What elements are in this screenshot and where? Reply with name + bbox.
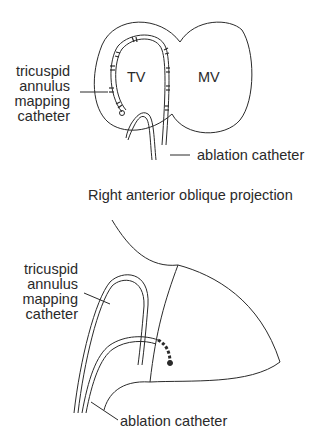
label-line: tricuspid [0, 262, 78, 277]
label-line: tricuspid [0, 64, 70, 79]
ablation-leader-rao [91, 402, 118, 420]
ablation-catheter-label-lao: ablation catheter [197, 148, 304, 163]
rao-title: Right anterior oblique projection [88, 188, 293, 203]
mapping-catheter-label-rao: tricuspid annulus mapping catheter [0, 262, 78, 322]
rao-septum [150, 265, 178, 382]
label-line: mapping [0, 292, 78, 307]
rao-outline-top [112, 220, 280, 362]
mv-label: MV [198, 70, 220, 85]
rao-outline-bottom [104, 362, 280, 410]
label-line: annulus [0, 277, 78, 292]
ablation-catheter-rao [82, 337, 158, 413]
ablation-catheter-label-rao: ablation catheter [120, 414, 227, 429]
label-line: catheter [0, 109, 70, 124]
mapping-catheter-label-lao: tricuspid annulus mapping catheter [0, 64, 70, 124]
label-line: annulus [0, 79, 70, 94]
tv-label: TV [127, 70, 146, 85]
label-line: catheter [0, 307, 78, 322]
label-line: mapping [0, 94, 70, 109]
